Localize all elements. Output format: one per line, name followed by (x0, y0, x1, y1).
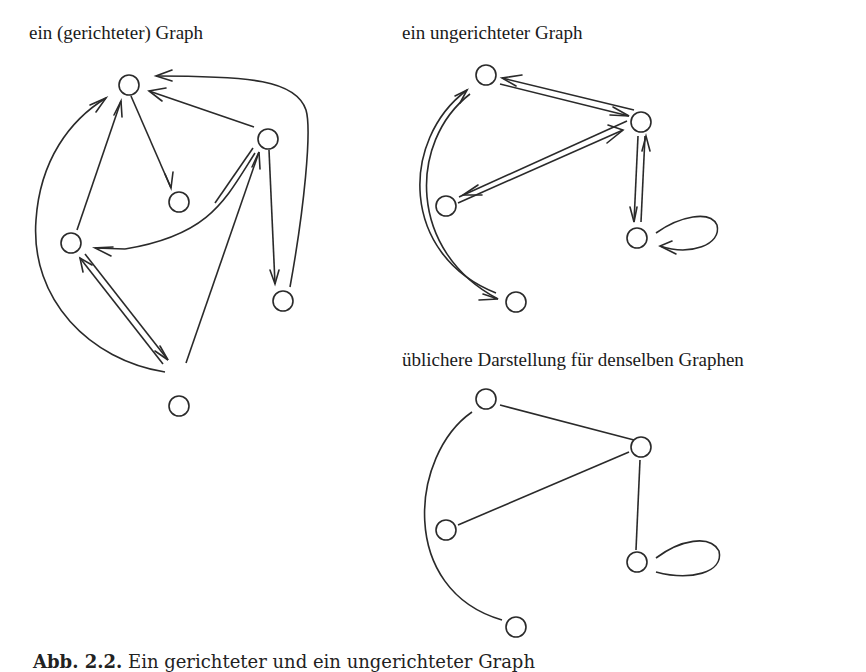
node-e (273, 291, 293, 311)
arrowhead-icon (455, 90, 467, 103)
edge-a-b (502, 78, 634, 110)
edge-b-d-tail (95, 248, 125, 249)
node-a (476, 389, 496, 409)
edge-b-a (500, 84, 629, 116)
arrowhead-icon (155, 346, 168, 360)
figure-caption: Abb. 2.2. Ein gerichteter und ein ungeri… (33, 651, 535, 672)
arrowhead-icon (90, 98, 106, 112)
node-d (627, 228, 647, 248)
edge-b-d (636, 460, 640, 550)
edge-d-a (77, 101, 121, 230)
edge-b-c (458, 452, 629, 525)
node-f (169, 396, 189, 416)
undirected-graph-arrows (420, 65, 718, 312)
edge-e-a (427, 94, 498, 299)
arrowhead-icon (165, 172, 173, 188)
node-c (436, 520, 456, 540)
edge-f-d (80, 258, 163, 364)
edge-b-a (149, 91, 254, 127)
node-a (119, 75, 139, 95)
node-d (61, 233, 81, 253)
edge-b-d (125, 153, 255, 249)
edge-a-e (425, 412, 502, 620)
node-c (169, 192, 189, 212)
edge-d-f (85, 254, 168, 360)
arrowhead-icon (642, 136, 650, 151)
node-c (436, 196, 456, 216)
node-b (258, 129, 278, 149)
edge-e-a (156, 76, 308, 287)
node-a (476, 65, 496, 85)
arrowhead-icon (630, 207, 637, 222)
node-e (506, 292, 526, 312)
edge-c-b (458, 130, 623, 203)
edge-b-f-line (215, 148, 253, 203)
edge-b-c (459, 121, 627, 197)
figure-number: Abb. 2.2. (33, 651, 122, 672)
loop-d (656, 216, 718, 249)
node-b (631, 112, 651, 132)
edge-f-b (186, 152, 259, 363)
loop-d (656, 541, 719, 576)
node-e (506, 617, 526, 637)
edge-b-e (269, 150, 275, 284)
directed-graph (36, 70, 308, 416)
node-d (627, 552, 647, 572)
figure-caption-text: Ein gerichteter und ein ungerichteter Gr… (122, 651, 535, 672)
undirected-graph-usual (425, 389, 720, 637)
edge-a-b (500, 405, 634, 440)
node-b (631, 437, 651, 457)
